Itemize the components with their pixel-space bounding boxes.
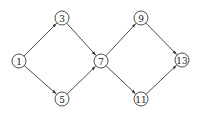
edge-7-to-9: [106, 23, 136, 55]
node-1: 1: [12, 54, 26, 68]
node-label: 7: [98, 57, 104, 67]
node-label: 9: [138, 14, 144, 24]
graph-canvas: 135791113: [0, 0, 200, 115]
node-3: 3: [55, 11, 69, 25]
edge-3-to-7: [67, 23, 96, 55]
node-11: 11: [134, 92, 148, 106]
node-label: 3: [59, 14, 65, 24]
edge-7-to-11: [106, 66, 135, 94]
edge-5-to-7: [67, 66, 96, 94]
node-5: 5: [55, 92, 69, 106]
edge-1-to-5: [24, 66, 56, 94]
node-label: 1: [16, 57, 22, 67]
edge-11-to-13: [146, 65, 176, 94]
node-label: 13: [176, 56, 188, 66]
edge-9-to-13: [146, 23, 177, 55]
node-13: 13: [175, 53, 189, 67]
node-label: 5: [59, 95, 65, 105]
node-label: 11: [135, 95, 146, 105]
node-7: 7: [94, 54, 108, 68]
nodes-group: 135791113: [12, 11, 189, 106]
edge-1-to-3: [24, 23, 57, 56]
node-9: 9: [134, 11, 148, 25]
